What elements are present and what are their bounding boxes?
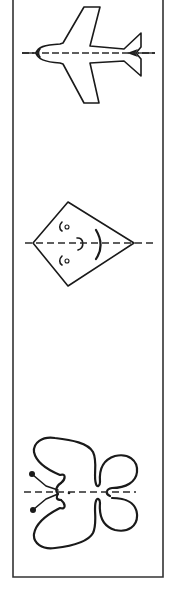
kite-eye-upper-brow <box>60 222 62 231</box>
butterfly-antenna-lower <box>34 494 58 509</box>
butterfly-figure <box>24 438 137 549</box>
butterfly-lower-forewing <box>34 499 100 549</box>
worksheet <box>0 0 170 611</box>
airplane-figure <box>22 7 155 103</box>
butterfly-lower-hindwing <box>100 498 137 531</box>
kite-nose <box>77 238 83 250</box>
kite-eye-lower-brow <box>60 256 62 265</box>
kite-eye-lower <box>65 259 69 263</box>
kite-mouth <box>96 230 101 259</box>
butterfly-upper-hindwing <box>100 455 137 496</box>
airplane-outline <box>36 7 141 103</box>
kite-eye-upper <box>65 225 69 229</box>
butterfly-antenna-tip-lower <box>30 507 36 513</box>
frame-border <box>13 0 163 577</box>
butterfly-antenna-tip-upper <box>29 471 35 477</box>
kite-figure <box>25 202 155 286</box>
butterfly-upper-forewing <box>34 438 100 487</box>
butterfly-antenna-upper <box>33 475 58 490</box>
